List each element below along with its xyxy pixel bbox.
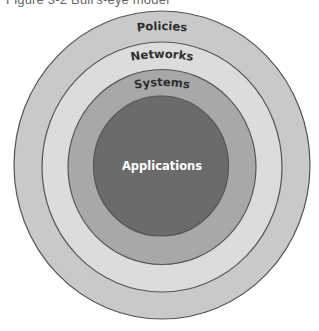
bulls-eye-diagram: Policies Networks Systems Applications: [0, 0, 319, 331]
applications-label: Applications: [122, 159, 202, 173]
